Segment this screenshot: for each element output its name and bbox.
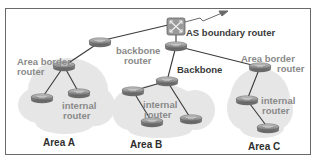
- area-a-border-router-label-line2: router: [17, 67, 44, 77]
- area-b-label: Area B: [130, 140, 162, 150]
- area-b-internal-router-1-icon: [122, 87, 144, 96]
- area-c-label: Area C: [248, 142, 280, 152]
- area-a-internal-router-1-icon: [31, 94, 53, 103]
- as-boundary-router-icon: [167, 18, 185, 35]
- area-b-border-router-icon: [156, 77, 178, 86]
- area-c-internal-router-1-icon: [236, 96, 258, 105]
- area-a-internal-router-2-icon: [68, 89, 90, 98]
- as-boundary-router-label: AS boundary router: [186, 28, 275, 38]
- backbone-router-top-icon: [165, 42, 187, 51]
- backbone-router-label-line2: router: [124, 56, 151, 66]
- backbone-label: Backbone: [177, 65, 222, 75]
- area-c-border-router-label-line2: router: [277, 64, 304, 74]
- area-c-internal-router-label-line2: router: [262, 106, 289, 116]
- area-b-internal-router-label-line2: router: [144, 110, 171, 120]
- area-a-label: Area A: [43, 138, 75, 148]
- backbone-router-icon: [89, 38, 111, 47]
- area-c-border-router-icon: [249, 63, 271, 72]
- area-c-internal-router-2-icon: [257, 124, 279, 133]
- external-link-arrow: [185, 11, 228, 22]
- area-b-internal-router-3-icon: [180, 115, 202, 124]
- area-a-internal-router-label-line2: router: [63, 111, 90, 121]
